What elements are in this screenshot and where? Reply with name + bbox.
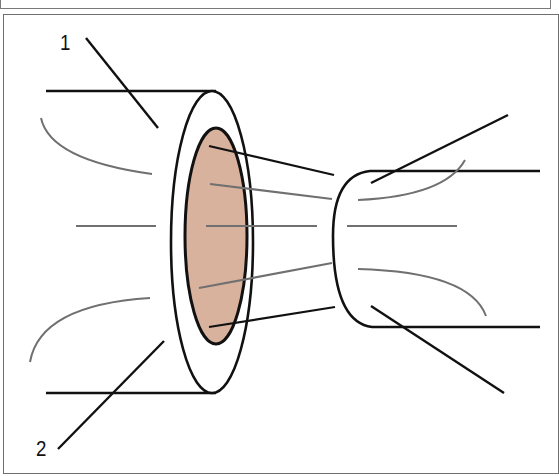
small-tube <box>333 171 540 327</box>
flow-lines-left <box>30 118 156 362</box>
flow-lines-right <box>347 160 486 316</box>
large-tube <box>46 91 253 393</box>
label-2: 2 <box>36 436 46 462</box>
pointer-lines <box>58 38 508 449</box>
label-1: 1 <box>60 30 70 56</box>
